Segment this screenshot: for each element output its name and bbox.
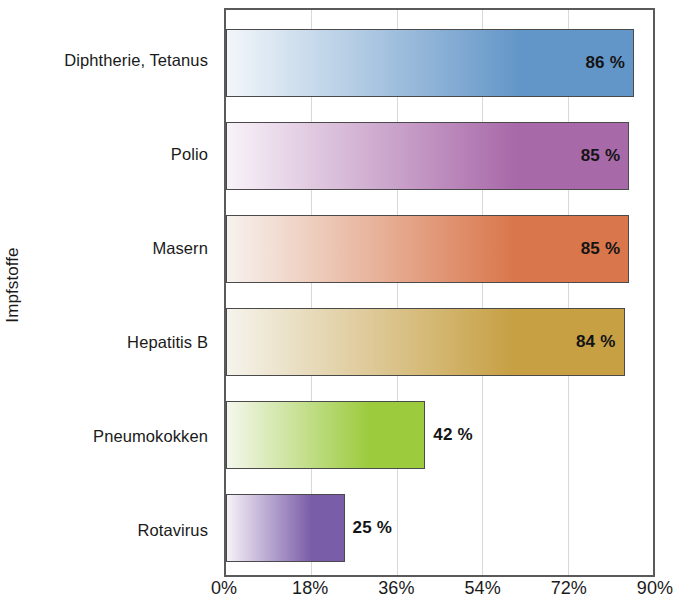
x-tick-label-54: 54% [464,578,500,599]
category-label-pneumokokken: Pneumokokken [26,389,218,483]
bar-value-hepatitis-b: 84 % [576,332,616,352]
category-label-polio: Polio [26,108,218,202]
table-row: 86 % [226,16,653,109]
bar-hepatitis-b: 84 % [226,308,625,376]
category-label-hepatitis-b: Hepatitis B [26,295,218,389]
category-label-diphtherie-tetanus: Diphtherie, Tetanus [26,14,218,108]
bar-chart: Impfstoffe Diphtherie, Tetanus Polio Mas… [0,0,689,607]
bar-polio: 85 % [226,122,629,190]
x-tick-label-18: 18% [292,578,328,599]
bar-masern: 85 % [226,215,629,283]
table-row: 84 % [226,296,653,389]
table-row: 85 % [226,202,653,295]
bar-value-rotavirus: 25 % [353,518,393,538]
table-row: 25 % [226,482,653,575]
y-axis-title: Impfstoffe [0,0,26,570]
bar-rows: 86 % 85 % 85 % 84 % [226,10,653,575]
y-axis-title-text: Impfstoffe [3,247,23,322]
bar-rotavirus: 25 % [226,494,345,562]
x-tick-label-0: 0% [211,578,237,599]
x-axis-tick-labels: 0%18%36%54%72%90% [224,578,655,607]
category-label-masern: Masern [26,202,218,296]
bar-value-polio: 85 % [581,146,621,166]
x-tick-label-72: 72% [551,578,587,599]
x-tick-label-36: 36% [378,578,414,599]
bar-pneumokokken: 42 % [226,401,425,469]
category-label-rotavirus: Rotavirus [26,483,218,577]
bar-value-pneumokokken: 42 % [433,425,473,445]
plot-area: 86 % 85 % 85 % 84 % [224,8,655,577]
x-tick-label-90: 90% [637,578,673,599]
table-row: 85 % [226,109,653,202]
bar-value-diphtherie-tetanus: 86 % [585,53,625,73]
table-row: 42 % [226,389,653,482]
bar-diphtherie-tetanus: 86 % [226,29,634,97]
bar-value-masern: 85 % [581,239,621,259]
category-label-column: Diphtherie, Tetanus Polio Masern Hepatit… [26,8,218,577]
